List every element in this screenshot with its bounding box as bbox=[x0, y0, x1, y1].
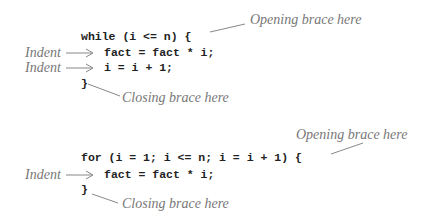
code-fact-line-2: fact = fact * i; bbox=[104, 168, 214, 182]
code-while-line: while (i <= n) { bbox=[81, 30, 191, 44]
annotation-lines bbox=[0, 0, 438, 221]
code-fact-line-1: fact = fact * i; bbox=[104, 46, 214, 60]
opening-brace-label-1: Opening brace here bbox=[250, 12, 361, 28]
code-closing-brace-2: } bbox=[81, 183, 88, 197]
opening-brace-leader-2 bbox=[331, 143, 363, 154]
code-increment-line: i = i + 1; bbox=[104, 61, 173, 75]
indent-label-1: Indent bbox=[25, 45, 61, 61]
closing-brace-label-1: Closing brace here bbox=[122, 90, 229, 106]
indent-label-2: Indent bbox=[25, 60, 61, 76]
opening-brace-label-2: Opening brace here bbox=[296, 127, 407, 143]
indent-label-3: Indent bbox=[25, 167, 61, 183]
code-closing-brace-1: } bbox=[81, 77, 88, 91]
opening-brace-leader-1 bbox=[210, 24, 245, 32]
closing-brace-leader-1 bbox=[88, 84, 120, 96]
code-for-line: for (i = 1; i <= n; i = i + 1) { bbox=[81, 151, 302, 165]
closing-brace-leader-2 bbox=[92, 194, 118, 203]
closing-brace-label-2: Closing brace here bbox=[122, 196, 229, 212]
